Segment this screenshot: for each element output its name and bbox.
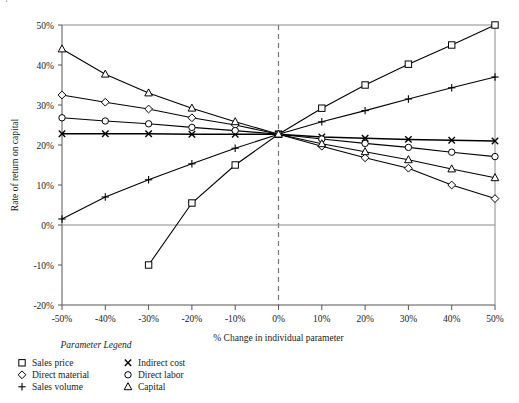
marker-sales-price (189, 200, 195, 206)
legend-label-capital: Capital (138, 382, 166, 392)
legend-label-direct-material: Direct material (32, 370, 90, 380)
y-tick-label: 50% (37, 21, 55, 31)
x-tick-label: -50% (52, 314, 73, 324)
y-tick-label: 0% (41, 221, 54, 231)
marker-direct-labor (59, 115, 65, 121)
marker-sales-price (319, 105, 325, 111)
legend-label-direct-labor: Direct labor (138, 370, 184, 380)
y-tick-label: 40% (37, 61, 55, 71)
legend-marker-triangle (124, 383, 132, 390)
marker-sales-price (232, 162, 238, 168)
page-artifact-mark: ʻ (5, 0, 8, 8)
x-tick-label: 50% (486, 314, 504, 324)
marker-direct-labor (405, 144, 411, 150)
legend-marker-diamond (18, 371, 26, 379)
legend-label-indirect-cost: Indirect cost (138, 358, 186, 368)
chart-canvas: -20%-10%0%10%20%30%40%50%-50%-40%-30%-20… (0, 0, 519, 403)
legend-marker-circle (125, 372, 131, 378)
marker-sales-price (405, 61, 411, 67)
marker-capital (58, 45, 66, 52)
series-line-capital (62, 49, 495, 178)
x-tick-label: -20% (182, 314, 203, 324)
legend-label-sales-price: Sales price (32, 358, 73, 368)
x-tick-label: 0% (272, 314, 285, 324)
marker-direct-labor (492, 153, 498, 159)
marker-direct-labor (102, 118, 108, 124)
marker-direct-labor (232, 127, 238, 133)
marker-direct-material (188, 114, 196, 122)
x-axis-title: % Change in individual parameter (213, 333, 344, 343)
marker-capital (102, 70, 110, 77)
x-tick-label: 20% (356, 314, 374, 324)
marker-direct-labor (145, 121, 151, 127)
y-axis-title: Rate of return on capital (10, 118, 20, 211)
y-tick-label: 20% (37, 141, 55, 151)
x-tick-label: -30% (138, 314, 159, 324)
x-tick-label: 10% (313, 314, 331, 324)
y-tick-label: 10% (37, 181, 55, 191)
legend-title: Parameter Legend (60, 340, 132, 350)
marker-direct-material (145, 105, 153, 113)
marker-direct-material (405, 164, 413, 172)
marker-sales-price (145, 262, 151, 268)
marker-direct-material (448, 181, 456, 189)
y-tick-label: -20% (33, 301, 54, 311)
legend-marker-square (19, 360, 25, 366)
marker-sales-price (492, 22, 498, 28)
y-tick-label: 30% (37, 101, 55, 111)
legend-label-sales-volume: Sales volume (32, 382, 83, 392)
marker-direct-labor (189, 124, 195, 130)
x-tick-label: 40% (443, 314, 461, 324)
y-tick-label: -10% (33, 261, 54, 271)
marker-sales-price (449, 42, 455, 48)
marker-direct-labor (449, 149, 455, 155)
marker-direct-material (101, 98, 109, 106)
marker-sales-price (362, 82, 368, 88)
sensitivity-chart: -20%-10%0%10%20%30%40%50%-50%-40%-30%-20… (0, 0, 519, 403)
x-tick-label: -10% (225, 314, 246, 324)
marker-direct-material (58, 91, 66, 99)
x-tick-label: 30% (400, 314, 418, 324)
marker-direct-labor (362, 140, 368, 146)
x-tick-label: -40% (95, 314, 116, 324)
marker-direct-material (491, 195, 499, 203)
